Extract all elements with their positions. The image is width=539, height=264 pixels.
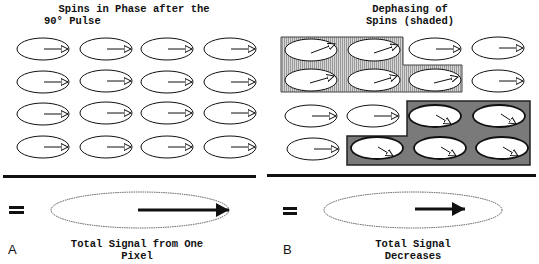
panel-b-title-line2: Spins (shaded) xyxy=(366,15,454,27)
panel-a: Spins in Phase after the 90° Pulse xyxy=(3,3,256,262)
spin-icon xyxy=(141,102,193,124)
spin-icon xyxy=(472,70,524,92)
spin-icon xyxy=(80,70,132,92)
spin-icon xyxy=(204,136,256,158)
panel-a-title-line1: Spins in Phase after the xyxy=(58,3,209,15)
dephased-spin-icon xyxy=(409,69,461,91)
panel-b-caption-line1: Total Signal xyxy=(375,238,451,250)
dephased-spin-icon xyxy=(348,39,400,61)
spin-icon xyxy=(17,103,69,125)
panel-a-total-signal xyxy=(51,192,229,228)
panel-a-title-line2: 90° Pulse xyxy=(44,15,101,27)
panel-b-equals-icon xyxy=(283,207,297,215)
spin-icon xyxy=(204,38,256,60)
spin-icon xyxy=(285,105,337,127)
spin-icon xyxy=(141,136,193,158)
spin-icon xyxy=(80,102,132,124)
dephased-spin-icon xyxy=(414,137,466,159)
spin-icon xyxy=(17,136,69,158)
spin-icon xyxy=(80,136,132,158)
spin-icon xyxy=(80,38,132,60)
dephased-spin-icon xyxy=(473,105,525,127)
spin-icon xyxy=(409,38,461,60)
panel-b: Dephasing of Spins (shaded) xyxy=(267,3,536,262)
panel-a-caption-line1: Total Signal from One xyxy=(71,238,203,250)
panel-b-label: B xyxy=(283,242,292,257)
dephased-spin-icon xyxy=(348,69,400,91)
dephased-spin-icon xyxy=(409,105,461,127)
spin-icon xyxy=(204,102,256,124)
dephased-spin-icon xyxy=(285,39,337,61)
panel-a-divider xyxy=(3,175,256,178)
panel-a-label: A xyxy=(8,242,17,257)
spin-icon xyxy=(472,37,524,59)
spin-icon xyxy=(141,38,193,60)
panel-b-divider xyxy=(267,174,536,177)
spin-icon xyxy=(141,71,193,93)
spin-icon xyxy=(17,38,69,60)
dephased-spin-icon xyxy=(476,137,528,159)
panel-a-caption-line2: Pixel xyxy=(121,250,153,262)
spin-icon xyxy=(287,138,339,160)
spin-icon xyxy=(17,71,69,93)
panel-b-title-line1: Dephasing of xyxy=(372,3,448,15)
panel-a-equals-icon xyxy=(9,206,24,214)
dephased-spin-icon xyxy=(351,137,403,159)
spin-icon xyxy=(204,71,256,93)
dephased-spin-icon xyxy=(285,69,337,91)
spin-dephasing-diagram: Spins in Phase after the 90° Pulse xyxy=(0,0,539,264)
spin-icon xyxy=(347,105,399,127)
panel-b-total-signal xyxy=(324,192,502,228)
panel-b-caption-line2: Decreases xyxy=(385,250,442,262)
panel-a-spin-grid xyxy=(17,38,256,158)
